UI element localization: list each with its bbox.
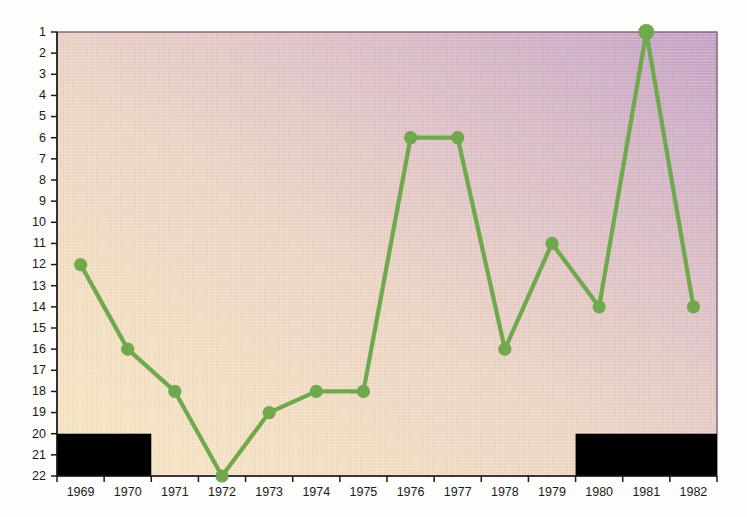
data-point-marker xyxy=(404,131,417,144)
y-tick-label: 7 xyxy=(39,152,46,166)
x-tick-label: 1972 xyxy=(208,485,236,499)
x-tick-label: 1977 xyxy=(444,485,472,499)
y-tick-label: 2 xyxy=(39,46,46,60)
data-point-marker xyxy=(638,24,654,40)
data-point-marker xyxy=(451,131,464,144)
y-tick-label: 15 xyxy=(32,321,46,335)
data-point-marker xyxy=(263,406,276,419)
x-tick-label: 1982 xyxy=(680,485,708,499)
x-tick-label: 1978 xyxy=(491,485,519,499)
x-tick-label: 1975 xyxy=(350,485,378,499)
y-tick-label: 11 xyxy=(33,236,46,250)
data-point-marker xyxy=(74,258,87,271)
y-axis: 12345678910111213141516171819202122 xyxy=(32,25,57,483)
y-tick-label: 14 xyxy=(32,300,46,314)
y-tick-label: 16 xyxy=(32,342,46,356)
y-tick-label: 12 xyxy=(32,257,46,271)
rank-line-chart: 12345678910111213141516171819202122 1969… xyxy=(0,0,747,517)
y-tick-label: 1 xyxy=(39,25,46,39)
right-black-band xyxy=(576,434,717,476)
y-tick-label: 21 xyxy=(32,448,46,462)
x-axis: 1969197019711972197319741975197619771978… xyxy=(57,476,717,499)
y-tick-label: 18 xyxy=(32,384,46,398)
y-tick-label: 3 xyxy=(39,67,46,81)
x-tick-label: 1980 xyxy=(585,485,613,499)
x-tick-label: 1970 xyxy=(114,485,142,499)
x-tick-label: 1971 xyxy=(161,485,189,499)
y-tick-label: 19 xyxy=(32,405,46,419)
data-point-marker xyxy=(498,343,511,356)
data-point-marker xyxy=(357,385,370,398)
y-tick-label: 20 xyxy=(32,427,46,441)
x-tick-label: 1974 xyxy=(302,485,330,499)
x-tick-label: 1969 xyxy=(67,485,95,499)
y-tick-label: 4 xyxy=(39,88,46,102)
y-tick-label: 17 xyxy=(32,363,46,377)
y-tick-label: 6 xyxy=(39,131,46,145)
x-tick-label: 1973 xyxy=(255,485,283,499)
x-tick-label: 1976 xyxy=(397,485,425,499)
data-point-marker xyxy=(545,237,558,250)
data-point-marker xyxy=(215,469,228,482)
x-tick-label: 1979 xyxy=(538,485,566,499)
y-tick-label: 5 xyxy=(39,109,46,123)
data-point-marker xyxy=(121,343,134,356)
y-tick-label: 10 xyxy=(32,215,46,229)
x-tick-label: 1981 xyxy=(632,485,660,499)
y-tick-label: 8 xyxy=(39,173,46,187)
chart-container: 12345678910111213141516171819202122 1969… xyxy=(0,0,747,517)
y-tick-label: 9 xyxy=(39,194,46,208)
data-point-marker xyxy=(593,300,606,313)
data-point-marker xyxy=(168,385,181,398)
data-point-marker xyxy=(687,300,700,313)
data-point-marker xyxy=(310,385,323,398)
y-tick-label: 13 xyxy=(32,279,46,293)
y-tick-label: 22 xyxy=(32,469,46,483)
left-black-band xyxy=(57,434,151,476)
